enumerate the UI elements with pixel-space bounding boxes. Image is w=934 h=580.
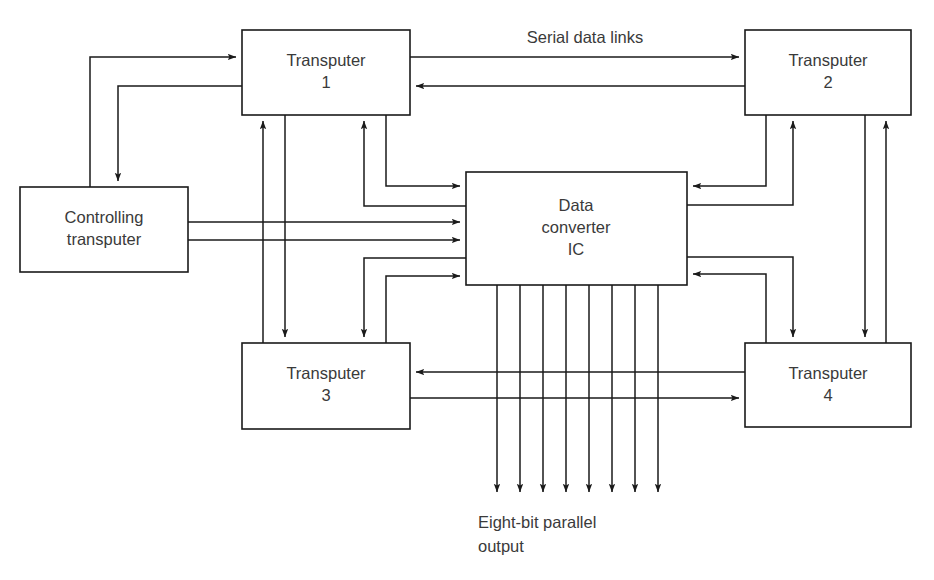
- transputer-2-block[interactable]: Transputer 2: [745, 30, 911, 115]
- transputer-1-block[interactable]: Transputer 1: [242, 30, 410, 115]
- wire-dc-to-t2: [687, 121, 793, 205]
- transputer-1-label-line1: Transputer: [286, 51, 366, 69]
- eight-bit-parallel-output-label-line1: Eight-bit parallel: [478, 513, 596, 531]
- data-converter-ic-block[interactable]: Data converter IC: [466, 172, 687, 285]
- blocks-layer: Transputer 1 Transputer 2 Controlling tr…: [20, 30, 911, 429]
- block-diagram-figure: Transputer 1 Transputer 2 Controlling tr…: [0, 0, 934, 580]
- transputer-4-block[interactable]: Transputer 4: [745, 343, 911, 427]
- controlling-transputer-block[interactable]: Controlling transputer: [20, 187, 188, 272]
- transputer-2-label-line2: 2: [823, 73, 832, 91]
- annotations-layer: Serial data links Eight-bit parallel out…: [478, 26, 678, 555]
- wire-t1-to-ctrl: [118, 86, 242, 181]
- wire-dc-to-t1: [364, 121, 466, 206]
- diagram-canvas: Transputer 1 Transputer 2 Controlling tr…: [0, 0, 934, 580]
- data-converter-ic-label-line1: Data: [559, 196, 595, 214]
- wire-ctrl-to-t1: [90, 57, 236, 187]
- transputer-3-label-line1: Transputer: [286, 364, 366, 382]
- transputer-4-label-line2: 4: [823, 386, 832, 404]
- transputer-3-block[interactable]: Transputer 3: [242, 343, 410, 429]
- transputer-4-label-line1: Transputer: [788, 364, 868, 382]
- eight-bit-parallel-output-label-line2: output: [478, 537, 524, 555]
- wire-dc-to-t3: [364, 258, 466, 337]
- controlling-transputer-label-line2: transputer: [67, 230, 142, 248]
- data-converter-ic-label-line2: converter: [542, 218, 611, 236]
- transputer-4-outline: [745, 343, 911, 427]
- transputer-3-label-line2: 3: [321, 386, 330, 404]
- wire-t3-to-dc: [386, 276, 460, 343]
- controlling-transputer-label-line1: Controlling: [65, 208, 144, 226]
- wire-dc-to-t4: [687, 257, 793, 337]
- serial-data-links-label: Serial data links: [527, 28, 643, 46]
- wire-t2-to-dc: [693, 115, 766, 186]
- wire-t1-to-dc: [386, 115, 460, 186]
- transputer-1-label-line2: 1: [321, 73, 330, 91]
- eight-bit-parallel-output-bus: [497, 285, 658, 492]
- data-converter-ic-label-line3: IC: [568, 240, 585, 258]
- wire-t4-to-dc: [693, 274, 766, 343]
- transputer-2-label-line1: Transputer: [788, 51, 868, 69]
